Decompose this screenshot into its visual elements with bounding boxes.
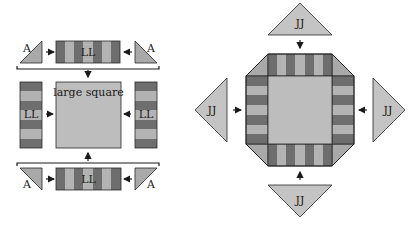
strip-label: LL: [139, 108, 154, 121]
large-square: large square: [53, 82, 123, 148]
triangle-label: JJ: [295, 17, 305, 30]
quilt-assembly-diagram: A LL A: [0, 0, 420, 228]
ll-strip-bottom: LL: [56, 168, 121, 190]
triangle-label: A: [146, 42, 156, 55]
ll-strip-top: LL: [56, 41, 120, 63]
strip-label: LL: [81, 46, 96, 59]
right-diagram: JJ JJ JJ: [195, 3, 405, 217]
bracket-top: [17, 66, 159, 69]
ll-strip-left: LL: [20, 82, 42, 148]
triangle-a-bottom-right: A: [135, 168, 157, 191]
bottom-row: A LL A: [17, 153, 159, 191]
triangle-jj-bottom: JJ: [268, 185, 332, 217]
triangle-label: A: [146, 178, 156, 191]
left-diagram: A LL A: [17, 41, 159, 191]
triangle-jj-left: JJ: [195, 78, 227, 142]
ll-strip-right: LL: [135, 82, 157, 148]
triangle-a-top-right: A: [135, 41, 157, 63]
triangle-jj-right: JJ: [373, 78, 405, 142]
strip-label: LL: [81, 173, 96, 186]
strip-label: LL: [24, 108, 39, 121]
triangle-label: JJ: [383, 104, 393, 117]
top-row: A LL A: [17, 41, 159, 77]
triangle-label: A: [22, 178, 32, 191]
triangle-a-top-left: A: [20, 41, 42, 63]
square-label: large square: [53, 86, 123, 99]
assembled-block: [246, 54, 354, 166]
triangle-label: JJ: [207, 104, 217, 117]
middle-row: LL large square LL: [20, 82, 157, 148]
triangle-a-bottom-left: A: [20, 168, 42, 191]
bracket-bottom: [17, 163, 159, 166]
triangle-label: JJ: [295, 194, 305, 207]
triangle-label: A: [22, 42, 32, 55]
triangle-jj-top: JJ: [268, 3, 332, 35]
